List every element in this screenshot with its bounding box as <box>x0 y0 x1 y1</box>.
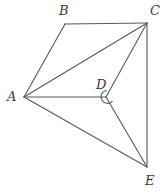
segment-group <box>24 23 147 167</box>
segment-ae <box>24 97 147 167</box>
figure-canvas <box>0 0 166 191</box>
vertex-label-e: E <box>145 174 155 187</box>
segment-ac <box>24 23 147 97</box>
segment-cd <box>106 23 147 97</box>
vertex-label-a: A <box>7 90 16 103</box>
vertex-label-d: D <box>96 78 106 91</box>
vertex-label-b: B <box>59 4 69 17</box>
segment-de <box>106 97 147 167</box>
geometry-diagram: A B C D E <box>0 0 166 191</box>
segment-bc <box>65 23 147 24</box>
vertex-label-c: C <box>150 4 160 17</box>
segment-ab <box>24 24 65 97</box>
